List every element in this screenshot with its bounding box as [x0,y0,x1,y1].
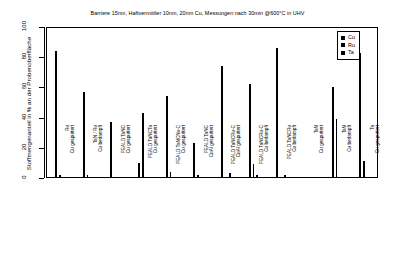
bar [249,84,251,178]
x-axis-label-line1: PEALD TaNCRu [287,125,292,187]
bar [276,48,278,178]
y-axis-tick [39,178,44,179]
x-axis-label-line2: Cu gesputtert [154,125,159,187]
bar-chart-figure: Barriere 15nm, Haftvermittler 10nm, 20nm… [0,0,395,254]
x-axis-label-line1: PEALD TaNC [121,125,126,187]
legend-item: Cu [341,34,355,42]
x-axis-label: TaNCu bedampft [342,125,353,187]
bar [225,177,227,179]
x-axis-label: TaN / RuCu bedampft [93,125,104,187]
legend-item: Ta [341,49,355,57]
legend-item: Ru [341,42,355,50]
legend-label-cu: Cu [348,35,355,40]
bar [280,177,282,179]
bar [138,163,140,178]
x-axis-label: PEALD TaNCRuCu bedampft [287,125,298,187]
bar [332,87,334,178]
y-axis-tick [39,118,44,119]
y-axis-tick [39,27,44,28]
bar [363,161,365,178]
x-axis-label-line2: Cu gesputtert [71,125,76,187]
bar [336,119,338,178]
y-axis-tick-label: 0 [21,164,27,190]
x-axis-label-line2: Cu gesputtert [320,125,325,187]
bar [193,143,195,178]
y-axis-tick [39,57,44,58]
chart-legend: Cu Ru Ta [337,31,360,60]
x-axis-label-line2: CuAl gesputtert [237,125,242,187]
legend-swatch-ru-icon [341,43,345,47]
x-axis-label-line1: Ta [370,125,375,187]
y-axis-tick-label: 100 [21,13,27,39]
x-axis-label: TaCu gesputtert [370,125,381,187]
x-axis-label-line2: Cu bedampft [264,125,269,187]
x-axis-label: PEALD TaNCTaCu gesputtert [148,125,159,187]
bar [253,164,255,178]
legend-label-ru: Ru [348,43,355,48]
y-axis-tick [39,87,44,88]
x-axis-label-line2: Cu bedampft [292,125,297,187]
x-axis-label-line2: Cu gesputtert [375,125,380,187]
x-axis-label-line2: Cu bedampft [98,125,103,187]
y-axis-line [44,27,45,178]
legend-swatch-cu-icon [341,36,345,40]
x-axis-label: PEALD TaNCRu-CCu bedampft [259,125,270,187]
bar [110,122,112,178]
legend-swatch-ta-icon [341,51,345,55]
bar [59,175,61,178]
x-axis-label: PEALD TaNCCu gesputtert [121,125,132,187]
y-axis-tick-label: 40 [21,104,27,130]
bar [304,177,306,179]
bar [221,66,223,178]
bar [142,113,144,178]
x-axis-label-line2: Cu bedampft [347,125,352,187]
x-axis-label-line2: CuAl gesputtert [209,125,214,187]
x-axis-label: PEALD TaNCRu-CCuAl gesputtert [231,125,242,187]
bar [55,51,57,178]
x-axis-label-line2: Cu gesputtert [181,125,186,187]
bar [197,175,199,178]
bar [83,92,85,178]
y-axis-tick-label: 20 [21,134,27,160]
legend-label-ta: Ta [348,50,354,55]
x-axis-label: RuCu gesputtert [65,125,76,187]
x-axis-label: PEALD TaNCNx-CCu gesputtert [176,125,187,187]
bar [166,96,168,178]
bar [284,175,286,178]
bar [87,175,89,178]
x-axis-label-line1: PEALD TaNC [204,125,209,187]
bar [170,172,172,178]
chart-title: Barriere 15nm, Haftvermittler 10nm, 20nm… [0,10,395,16]
bar [359,53,361,178]
x-axis-label-line2: Cu gesputtert [126,125,131,187]
y-axis-tick-label: 60 [21,73,27,99]
y-axis-tick [39,148,44,149]
x-axis-label: TaNCu gesputtert [314,125,325,187]
x-axis-label: PEALD TaNCCuAl gesputtert [204,125,215,187]
y-axis-tick-label: 80 [21,43,27,69]
